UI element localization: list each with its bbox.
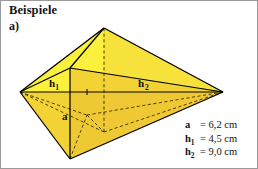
legend-row-a: a= 6,2 cm [185,118,237,132]
edge-label-a-text: a [62,110,68,122]
legend-row-h2: h2= 9,0 cm [185,145,237,159]
edge-label-a: a [62,110,68,122]
legend-symbol-h2-sub: 2 [191,151,195,160]
figure-page: Beispiele a) [0,0,258,169]
height-label-h2-sub: 2 [145,83,149,92]
legend-symbol-h2: h2 [185,145,200,163]
legend-value-h2: = 9,0 cm [200,145,237,159]
legend-value-a: = 6,2 cm [200,118,237,132]
legend-symbol-a-text: a [185,119,190,130]
legend-row-h1: h1= 4,5 cm [185,132,237,146]
legend-symbol-a: a [185,118,200,132]
height-label-h1-sub: 1 [55,83,59,92]
height-label-h2-text: h [138,77,144,89]
legend-value-h1: = 4,5 cm [200,132,237,146]
measurements-legend: a= 6,2 cm h1= 4,5 cm h2= 9,0 cm [185,118,237,159]
